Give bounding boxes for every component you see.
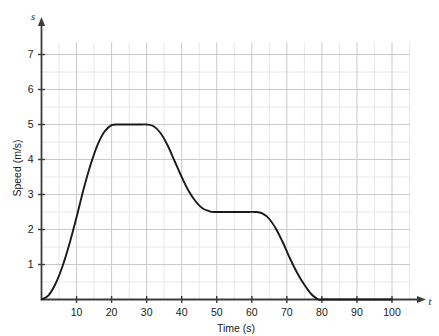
x-tick-label: 40 — [176, 306, 188, 318]
x-tick-label: 20 — [106, 306, 118, 318]
x-tick-label: 90 — [351, 306, 363, 318]
x-tick-label: 50 — [211, 306, 223, 318]
x-tick-label: 70 — [281, 306, 293, 318]
y-axis-symbol: s — [31, 11, 35, 22]
chart-background — [0, 0, 439, 336]
y-tick-label: 6 — [28, 83, 34, 95]
x-tick-label: 80 — [316, 306, 328, 318]
x-axis-label: Time (s) — [217, 322, 255, 334]
y-tick-label: 4 — [28, 153, 34, 165]
y-tick-label: 7 — [28, 48, 34, 60]
chart-canvas: 102030405060708090100 1234567 Time (s) S… — [0, 0, 439, 336]
speed-time-chart: 102030405060708090100 1234567 Time (s) S… — [0, 0, 439, 336]
x-tick-label: 60 — [246, 306, 258, 318]
x-tick-label: 30 — [141, 306, 153, 318]
y-tick-label: 1 — [28, 258, 34, 270]
y-tick-label: 2 — [28, 223, 34, 235]
y-tick-label: 3 — [28, 188, 34, 200]
x-tick-label: 10 — [71, 306, 83, 318]
y-tick-label: 5 — [28, 118, 34, 130]
x-tick-label: 100 — [383, 306, 401, 318]
y-axis-label: Speed (m/s) — [11, 139, 23, 196]
